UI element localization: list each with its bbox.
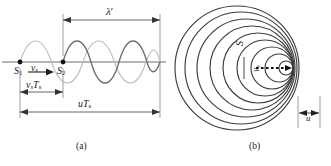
label-velocity-source-b: vs (252, 65, 262, 72)
doppler-figure: λ′ S1 S2 vs vsTs uTs (a) S vs u (b) (0, 0, 331, 166)
caption-panel-b: (b) (249, 142, 260, 152)
point-s1 (18, 60, 23, 65)
caption-panel-a: (a) (76, 142, 87, 152)
dimension-lambda-prime (63, 17, 160, 23)
wavefront-circle-8 (185, 12, 297, 124)
label-wave-distance: uTs (78, 99, 91, 110)
label-wave-speed-u: u (306, 114, 311, 123)
label-wavelength-primed: λ′ (106, 6, 113, 17)
wavefront-circle-7 (197, 19, 295, 117)
figure-canvas (0, 0, 331, 166)
panel-b-group (175, 6, 320, 130)
point-s2 (61, 60, 66, 65)
label-velocity-source-a: vs (31, 64, 38, 74)
label-source-2: S2 (57, 66, 65, 77)
label-source-displacement: vsTs (26, 80, 41, 91)
dimension-u-gap (298, 96, 320, 128)
label-source-1: S1 (14, 66, 22, 77)
label-source-b: S (235, 41, 245, 46)
